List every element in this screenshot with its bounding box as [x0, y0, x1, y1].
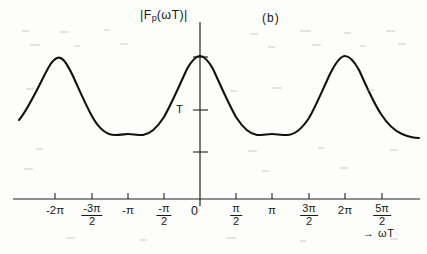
- y-axis-title: |Fp(ωT)|: [140, 9, 188, 23]
- tick-fraction-denominator: 2: [373, 216, 391, 228]
- x-axis-tick-label: -π: [122, 204, 134, 216]
- tick-fraction-numerator: 3π: [300, 203, 318, 216]
- panel-label: (b): [262, 12, 280, 24]
- x-axis-tick-label: -2π: [46, 204, 64, 216]
- y-axis-title-before: |F: [140, 8, 152, 22]
- x-axis-title: → ωT: [363, 228, 394, 239]
- tick-fraction-denominator: 2: [230, 216, 242, 228]
- tick-fraction-numerator: -π: [156, 203, 171, 216]
- y-axis-title-after: (ωT)|: [157, 8, 188, 22]
- origin-label: 0: [191, 205, 198, 218]
- x-axis-tick-label: -3π2: [81, 202, 102, 227]
- x-axis-tick-label: 3π2: [300, 202, 318, 227]
- x-axis-tick-label: 5π2: [373, 202, 391, 227]
- tick-fraction-denominator: 2: [81, 216, 102, 228]
- x-axis-tick-label: -π2: [156, 202, 171, 227]
- figure-panel-b: |Fp(ωT)| (b) T 0 → ωT -2π-3π2-π-π2π2π3π2…: [0, 0, 427, 254]
- x-axis-ticks: [55, 193, 382, 199]
- y-axis-tick-label-T: T: [176, 104, 183, 116]
- tick-fraction-denominator: 2: [156, 216, 171, 228]
- tick-fraction-denominator: 2: [300, 216, 318, 228]
- tick-fraction-numerator: π: [230, 203, 242, 216]
- x-axis-variable: ωT: [378, 227, 394, 239]
- tick-fraction-numerator: -3π: [81, 203, 102, 216]
- x-axis-tick-label: π: [268, 204, 276, 216]
- x-axis-tick-label: 2π: [338, 204, 352, 216]
- tick-fraction-numerator: 5π: [373, 203, 391, 216]
- x-axis-tick-label: π2: [230, 202, 242, 227]
- curve-magnitude-spectrum: [19, 56, 419, 138]
- x-axis-arrow-icon: →: [363, 227, 375, 239]
